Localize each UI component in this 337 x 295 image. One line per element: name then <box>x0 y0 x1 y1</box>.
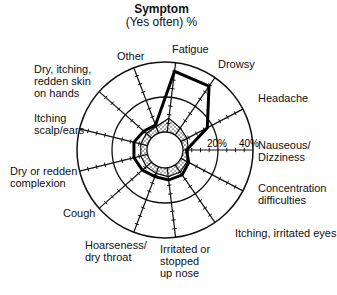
axis-label-7: Dry or redden complexion <box>10 165 77 189</box>
axis-label-3: Fatigue <box>172 43 209 55</box>
axis-tick <box>166 176 170 177</box>
axis-tick <box>170 211 174 212</box>
axis-label-2: Drowsy <box>218 58 255 70</box>
axis-tick <box>122 137 123 141</box>
axis-tick <box>88 167 89 171</box>
axis-label-11: Itching, irritated eyes <box>235 227 337 239</box>
axis-tick <box>96 131 97 135</box>
axis-tick <box>130 139 131 143</box>
inner-circle-0pct <box>147 132 183 168</box>
tick-label-40: 40% <box>239 138 259 149</box>
axis-tick <box>105 133 106 137</box>
axis-tick <box>88 129 89 133</box>
axis-tick <box>96 165 97 169</box>
axis-label-12: Concentration difficulties <box>258 182 327 206</box>
axis-tick <box>167 114 171 115</box>
axis-tick <box>170 88 174 89</box>
axis-label-0: Nauseous/ Dizziness <box>258 139 311 163</box>
axis-label-8: Cough <box>63 207 95 219</box>
axis-tick <box>122 158 123 162</box>
axis-tick <box>130 156 131 160</box>
axis-spoke <box>99 162 151 208</box>
axis-tick <box>172 228 176 229</box>
axis-tick <box>105 163 106 167</box>
tick-label-20: 20% <box>207 138 227 149</box>
axis-tick <box>166 123 170 124</box>
axis-label-9: Hoarseness/ dry throat <box>85 239 147 263</box>
axis-label-10: Irritated or stopped up nose <box>160 243 210 279</box>
axis-tick <box>168 194 172 195</box>
axis-label-1: Headache <box>258 92 308 104</box>
axis-tick <box>168 106 172 107</box>
axis-tick <box>171 220 175 221</box>
axis-tick <box>139 154 140 158</box>
axis-label-5: Dry, itching, redden skin on hands <box>34 63 91 99</box>
axis-tick <box>139 141 140 145</box>
axis-tick <box>167 185 171 186</box>
axis-label-4: Other <box>117 50 145 62</box>
axis-label-6: Itching scalp/ears <box>34 112 84 136</box>
